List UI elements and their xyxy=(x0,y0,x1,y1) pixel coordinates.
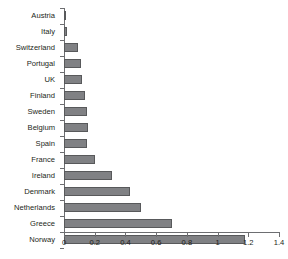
y-axis-tick xyxy=(60,200,64,201)
y-axis-label: Austria xyxy=(0,8,58,24)
x-axis-tick xyxy=(64,233,65,237)
x-axis-label: 0.2 xyxy=(80,238,110,247)
y-axis-label: Netherlands xyxy=(0,200,58,216)
y-axis-label: Italy xyxy=(0,24,58,40)
y-axis-label: Portugal xyxy=(0,56,58,72)
x-axis-label: 1.2 xyxy=(233,238,263,247)
y-axis-tick xyxy=(60,216,64,217)
bar xyxy=(64,59,81,68)
y-axis-tick xyxy=(60,184,64,185)
bar-row xyxy=(64,120,279,136)
y-axis-tick xyxy=(60,40,64,41)
y-axis-label: Denmark xyxy=(0,184,58,200)
y-axis-tick xyxy=(60,24,64,25)
bar xyxy=(64,75,82,84)
bar-row xyxy=(64,56,279,72)
y-axis-label: Finland xyxy=(0,88,58,104)
x-axis-tick xyxy=(279,233,280,237)
y-axis-label: Ireland xyxy=(0,168,58,184)
x-axis-label: 0.8 xyxy=(172,238,202,247)
bar-row xyxy=(64,136,279,152)
x-axis-label: 1 xyxy=(203,238,233,247)
y-axis-tick xyxy=(60,248,64,249)
bar xyxy=(64,139,87,148)
x-axis-label: 0.6 xyxy=(141,238,171,247)
y-axis-tick xyxy=(60,136,64,137)
y-axis-tick xyxy=(60,88,64,89)
x-axis-tick xyxy=(248,233,249,237)
x-axis-tick xyxy=(187,233,188,237)
bar xyxy=(64,11,66,20)
bar xyxy=(64,219,172,228)
plot-area xyxy=(64,8,279,232)
bar xyxy=(64,91,85,100)
y-axis-tick xyxy=(60,104,64,105)
bar xyxy=(64,27,67,36)
y-axis-tick xyxy=(60,120,64,121)
y-axis-tick xyxy=(60,56,64,57)
bar-row xyxy=(64,152,279,168)
y-axis-tick xyxy=(60,72,64,73)
bar xyxy=(64,155,95,164)
bar-row xyxy=(64,216,279,232)
y-axis-labels: AustriaItalySwitzerlandPortugalUKFinland… xyxy=(0,8,58,232)
x-axis-tick xyxy=(125,233,126,237)
bar-row xyxy=(64,168,279,184)
bar xyxy=(64,203,141,212)
bar-row xyxy=(64,40,279,56)
bar-row xyxy=(64,8,279,24)
bar xyxy=(64,107,87,116)
x-axis-tick xyxy=(218,233,219,237)
x-axis-tick xyxy=(156,233,157,237)
bar-row xyxy=(64,200,279,216)
x-axis-label: 0.4 xyxy=(110,238,140,247)
x-axis-label: 0 xyxy=(49,238,79,247)
y-axis-label: Greece xyxy=(0,216,58,232)
bar-row xyxy=(64,184,279,200)
y-axis-label: UK xyxy=(0,72,58,88)
bar xyxy=(64,123,88,132)
bar xyxy=(64,187,130,196)
y-axis-label: France xyxy=(0,152,58,168)
y-axis-tick xyxy=(60,8,64,9)
y-axis-label: Belgium xyxy=(0,120,58,136)
y-axis-label: Spain xyxy=(0,136,58,152)
bar-row xyxy=(64,24,279,40)
y-axis-tick xyxy=(60,152,64,153)
bar xyxy=(64,43,78,52)
y-axis-tick xyxy=(60,168,64,169)
bar-row xyxy=(64,104,279,120)
bar-chart: AustriaItalySwitzerlandPortugalUKFinland… xyxy=(0,0,288,259)
y-axis-label: Sweden xyxy=(0,104,58,120)
bar-row xyxy=(64,72,279,88)
y-axis-label: Switzerland xyxy=(0,40,58,56)
x-axis-tick xyxy=(95,233,96,237)
bar xyxy=(64,171,112,180)
bar-rows xyxy=(64,8,279,232)
bar-row xyxy=(64,88,279,104)
x-axis-label: 1.4 xyxy=(264,238,288,247)
